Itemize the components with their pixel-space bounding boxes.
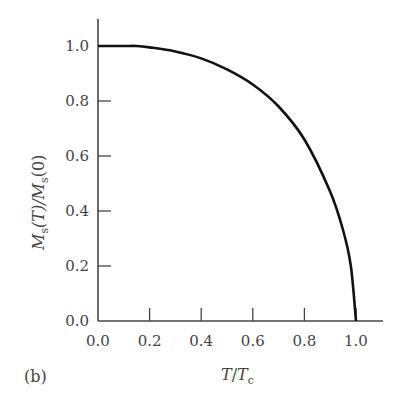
- y-tick-label: 1.0: [65, 37, 89, 55]
- y-tick-label: 0.2: [65, 257, 89, 275]
- x-tick-label: 0.6: [241, 332, 265, 350]
- chart: 0.00.20.40.60.81.00.00.20.40.60.81.0 T/T…: [0, 0, 401, 408]
- x-tick-label: 1.0: [344, 332, 368, 350]
- axes: [98, 19, 383, 321]
- y-tick-label: 0.8: [65, 92, 89, 110]
- magnetization-curve: [98, 46, 356, 321]
- x-tick-label: 0.2: [138, 332, 162, 350]
- y-tick-label: 0.6: [65, 147, 89, 165]
- x-tick-label: 0.4: [189, 332, 213, 350]
- y-axis-label: Ms(T)/Ms(0): [29, 155, 51, 251]
- ticks: 0.00.20.40.60.81.00.00.20.40.60.81.0: [65, 37, 368, 350]
- x-axis-label: T/Tc: [221, 365, 254, 387]
- panel-label: (b): [24, 367, 47, 386]
- x-tick-label: 0.8: [292, 332, 316, 350]
- x-tick-label: 0.0: [86, 332, 110, 350]
- y-tick-label: 0.0: [65, 312, 89, 330]
- y-tick-label: 0.4: [65, 202, 89, 220]
